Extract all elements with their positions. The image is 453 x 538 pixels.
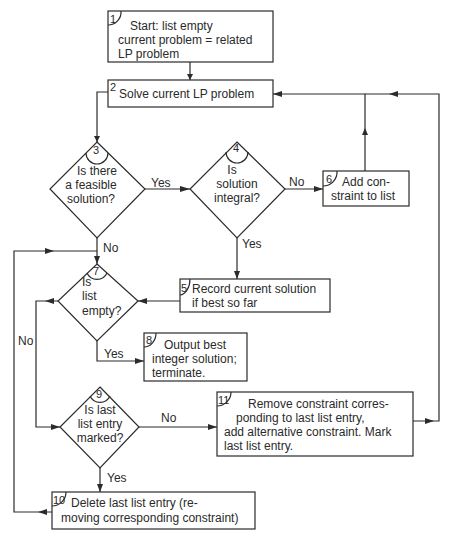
edge-label-no: No bbox=[289, 175, 305, 189]
edge-label-yes: Yes bbox=[151, 176, 171, 190]
svg-text:Is there: Is there bbox=[77, 164, 117, 178]
node-2-solve: 2 Solve current LP problem bbox=[108, 80, 273, 107]
edge-2-to-3 bbox=[97, 92, 108, 142]
flowchart-canvas: 1 Start: list empty current problem = re… bbox=[0, 0, 453, 538]
svg-text:solution?: solution? bbox=[67, 192, 115, 206]
node-6-add-constraint: 6 Add con- straint to list bbox=[323, 171, 409, 206]
svg-text:Is last: Is last bbox=[84, 403, 116, 417]
edge-label-no: No bbox=[103, 241, 119, 255]
svg-text:moving corresponding constrain: moving corresponding constraint) bbox=[61, 511, 238, 525]
svg-text:Delete last list entry (re-: Delete last list entry (re- bbox=[71, 496, 198, 510]
svg-text:last list entry.: last list entry. bbox=[224, 439, 293, 453]
edge-6-to-2 bbox=[273, 94, 365, 171]
node-7-number: 7 bbox=[93, 265, 99, 277]
svg-text:integral?: integral? bbox=[214, 191, 260, 205]
svg-text:add alternative constraint. Ma: add alternative constraint. Mark bbox=[224, 425, 392, 439]
edge-11-to-2 bbox=[365, 94, 439, 421]
node-1-start: 1 Start: list empty current problem = re… bbox=[108, 11, 273, 62]
svg-text:list entry: list entry bbox=[78, 417, 123, 431]
svg-text:marked?: marked? bbox=[77, 431, 124, 445]
svg-text:Start: list empty: Start: list empty bbox=[130, 19, 213, 33]
svg-text:solution: solution bbox=[216, 177, 257, 191]
node-4-integral-decision: 4 Is solution integral? bbox=[190, 142, 285, 238]
svg-text:ponding to last list entry,: ponding to last list entry, bbox=[236, 411, 365, 425]
svg-text:Output best: Output best bbox=[164, 338, 227, 352]
edge-label-no: No bbox=[18, 334, 34, 348]
node-4-number: 4 bbox=[233, 142, 239, 154]
edge-label-yes: Yes bbox=[242, 237, 262, 251]
svg-text:current problem = related: current problem = related bbox=[118, 33, 252, 47]
node-3-feasible-decision: 3 Is there a feasible solution? bbox=[50, 142, 145, 238]
svg-text:a feasible: a feasible bbox=[65, 178, 117, 192]
svg-text:list: list bbox=[82, 289, 97, 303]
node-5-number: 5 bbox=[181, 282, 187, 294]
node-11-number: 11 bbox=[218, 394, 229, 406]
svg-text:Is: Is bbox=[82, 275, 91, 289]
edge-label-no: No bbox=[161, 411, 177, 425]
edge-7-to-9 bbox=[36, 301, 60, 427]
node-6-number: 6 bbox=[326, 173, 332, 185]
svg-text:Remove constraint corres-: Remove constraint corres- bbox=[248, 397, 389, 411]
node-9-number: 9 bbox=[96, 388, 102, 400]
node-8-number: 8 bbox=[146, 334, 152, 346]
edge-label-yes: Yes bbox=[107, 471, 127, 485]
svg-text:Add con-: Add con- bbox=[342, 175, 390, 189]
node-10-number: 10 bbox=[53, 494, 65, 506]
svg-text:Record current solution: Record current solution bbox=[192, 282, 316, 296]
svg-text:terminate.: terminate. bbox=[152, 366, 205, 380]
svg-text:straint to list: straint to list bbox=[331, 189, 396, 203]
node-7-list-empty-decision: 7 Is list empty? bbox=[58, 264, 138, 341]
node-5-record-solution: 5 Record current solution if best so far bbox=[180, 279, 330, 312]
svg-text:LP problem: LP problem bbox=[118, 47, 179, 61]
node-3-number: 3 bbox=[93, 144, 99, 156]
svg-text:Is: Is bbox=[227, 163, 236, 177]
node-1-number: 1 bbox=[110, 13, 116, 25]
edge-label-yes: Yes bbox=[104, 347, 124, 361]
node-2-number: 2 bbox=[110, 81, 116, 93]
svg-text:Solve current LP problem: Solve current LP problem bbox=[119, 87, 254, 101]
node-8-output-terminate: 8 Output best integer solution; terminat… bbox=[144, 333, 247, 381]
svg-text:if best so far: if best so far bbox=[192, 296, 257, 310]
arrowhead bbox=[187, 74, 193, 80]
node-11-remove-constraint: 11 Remove constraint corres- ponding to … bbox=[217, 392, 413, 456]
node-9-last-entry-marked-decision: 9 Is last list entry marked? bbox=[60, 387, 139, 468]
svg-text:empty?: empty? bbox=[82, 304, 122, 318]
svg-text:integer solution;: integer solution; bbox=[152, 352, 237, 366]
node-10-delete-last-entry: 10 Delete last list entry (re- moving co… bbox=[52, 492, 255, 529]
